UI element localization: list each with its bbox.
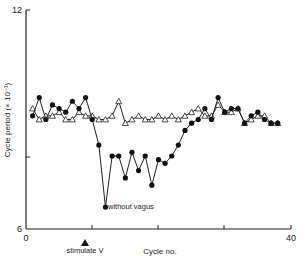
filled-circle-marker <box>90 117 95 122</box>
filled-circle-marker <box>209 117 214 122</box>
open-triangle-marker <box>175 117 181 122</box>
filled-circle-marker <box>143 153 148 158</box>
filled-circle-marker <box>103 205 108 210</box>
open-triangle-marker <box>195 106 201 111</box>
filled-circle-marker <box>235 106 240 111</box>
filled-circle-marker <box>70 99 75 104</box>
filled-circle-marker <box>262 117 267 122</box>
open-triangle-marker <box>36 117 42 122</box>
series-line <box>33 98 278 208</box>
filled-circle-marker <box>96 142 101 147</box>
open-triangle-marker <box>116 98 122 103</box>
open-triangle-marker <box>129 117 135 122</box>
filled-circle-marker <box>149 183 154 188</box>
stimulate-marker-icon <box>81 239 89 246</box>
filled-circle-marker <box>57 106 62 111</box>
filled-circle-marker <box>169 153 174 158</box>
filled-circle-marker <box>116 153 121 158</box>
open-triangle-marker <box>155 113 161 118</box>
filled-circle-marker <box>76 106 81 111</box>
open-triangle-marker <box>136 113 142 118</box>
filled-circle-marker <box>156 157 161 162</box>
filled-circle-marker <box>163 161 168 166</box>
open-triangle-marker <box>109 113 115 118</box>
filled-circle-marker <box>37 95 42 100</box>
filled-circle-marker <box>255 110 260 115</box>
filled-circle-marker <box>242 121 247 126</box>
open-triangle-marker <box>189 109 195 114</box>
filled-circle-marker <box>269 121 274 126</box>
filled-circle-marker <box>229 106 234 111</box>
filled-circle-marker <box>189 121 194 126</box>
series-line <box>33 101 278 123</box>
filled-circle-marker <box>129 150 134 155</box>
open-triangle-marker <box>182 113 188 118</box>
open-triangle-marker <box>122 120 128 125</box>
filled-circle-marker <box>123 175 128 180</box>
cycle-period-chart: 12 6 0 40 Cycle period (× 10⁻¹) Cycle no… <box>0 0 306 256</box>
series-without-vagus <box>30 95 280 210</box>
filled-circle-marker <box>50 102 55 107</box>
y-tick-label-top: 12 <box>12 5 22 15</box>
open-triangle-marker <box>169 113 175 118</box>
filled-circle-marker <box>275 121 280 126</box>
open-triangle-marker <box>162 117 168 122</box>
filled-circle-marker <box>63 110 68 115</box>
filled-circle-marker <box>216 95 221 100</box>
filled-circle-marker <box>110 153 115 158</box>
without-vagus-label: without vagus <box>107 202 154 211</box>
stimulate-label: stimulate V <box>66 246 103 255</box>
y-tick-label-bottom: 6 <box>17 224 22 234</box>
filled-circle-marker <box>83 95 88 100</box>
series-layer <box>30 95 281 210</box>
filled-circle-marker <box>43 117 48 122</box>
filled-circle-marker <box>196 117 201 122</box>
x-tick-label-left: 0 <box>23 233 28 243</box>
filled-circle-marker <box>202 106 207 111</box>
y-axis-label: Cycle period (× 10⁻¹) <box>3 82 12 157</box>
x-axis-label: Cycle no. <box>143 247 176 256</box>
filled-circle-marker <box>222 110 227 115</box>
filled-circle-marker <box>249 113 254 118</box>
filled-circle-marker <box>182 128 187 133</box>
x-tick-label-right: 40 <box>286 233 296 243</box>
filled-circle-marker <box>176 142 181 147</box>
filled-circle-marker <box>30 113 35 118</box>
filled-circle-marker <box>136 168 141 173</box>
